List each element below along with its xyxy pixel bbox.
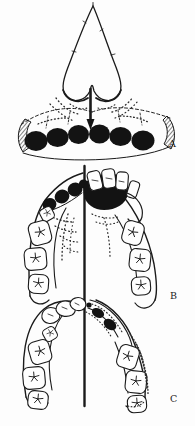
nose-outline xyxy=(50,3,138,122)
panel-c: C xyxy=(22,298,177,414)
panel-a-label: A xyxy=(168,138,176,149)
palatal-stipple-b xyxy=(62,214,110,260)
medical-illustration-page: A xyxy=(0,0,195,426)
figure-illustration: A xyxy=(0,0,195,426)
anterior-teeth-outline-c xyxy=(42,298,86,324)
panel-b: B xyxy=(24,168,177,308)
panel-b-label: B xyxy=(170,290,177,301)
posterior-teeth-b-right xyxy=(120,219,151,295)
panel-a: A xyxy=(18,3,176,160)
gum-contour-dashed xyxy=(22,108,170,128)
upper-teeth-row xyxy=(23,125,169,160)
posterior-teeth-b-left xyxy=(24,205,56,294)
displaced-premaxilla xyxy=(83,168,142,224)
panel-c-label: C xyxy=(170,393,177,404)
